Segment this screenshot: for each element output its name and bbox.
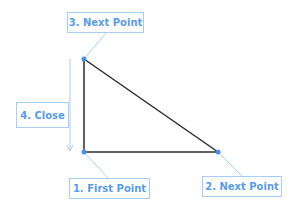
edge-2-3 [84,59,218,152]
point-3[interactable] [82,57,87,62]
leader-line-1 [84,152,108,178]
leader-line-2 [218,152,242,176]
leader-line-3 [84,33,106,59]
point-2[interactable] [216,150,221,155]
label-next-point-3: 3. Next Point [67,12,144,33]
label-first-point: 1. First Point [69,178,150,199]
label-close: 4. Close [16,102,69,128]
point-1[interactable] [82,150,87,155]
label-next-point-2: 2. Next Point [202,176,282,197]
